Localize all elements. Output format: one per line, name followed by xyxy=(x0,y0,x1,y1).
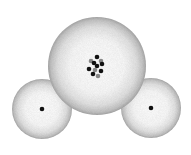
water-molecule-diagram xyxy=(0,0,191,155)
hydrogen-nucleus xyxy=(149,106,154,111)
oxygen-atom xyxy=(48,17,146,115)
hydrogen-nucleus xyxy=(40,107,45,112)
